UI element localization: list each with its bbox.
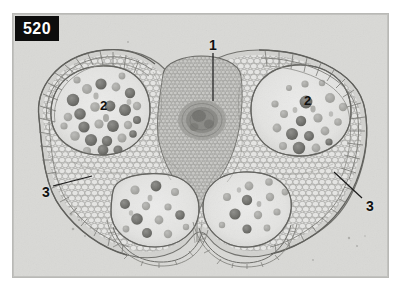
callout-3-left: 3	[42, 185, 50, 199]
callout-1: 1	[209, 38, 217, 52]
figure-plate: 520 1 2 2 3 3	[0, 0, 402, 292]
micrograph-photo	[13, 14, 388, 277]
callout-2-left: 2	[100, 99, 107, 112]
figure-number-box: 520	[15, 16, 59, 41]
callout-2-right: 2	[304, 94, 311, 107]
callout-3-right: 3	[366, 199, 374, 213]
micrograph-canvas	[13, 14, 388, 277]
figure-number-text: 520	[23, 21, 51, 37]
